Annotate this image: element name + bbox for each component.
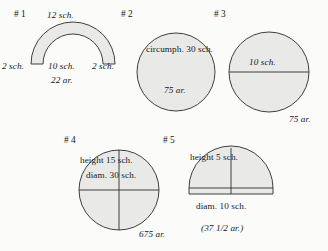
figure-1-center-label-text: 10 sch. [48, 61, 75, 71]
figure-2-number: # 2 [121, 10, 133, 19]
figure-1-left-label: 2 sch. [2, 62, 24, 71]
figure-1-area-label: 22 ar. [51, 76, 73, 85]
figure-4-diameter-label-text: diam. 30 sch. [86, 170, 136, 180]
figure-5-height-label-text: height 5 sch. [190, 152, 238, 162]
figure-3-circle-shape [228, 31, 310, 113]
figure-4-height-label: height 15 sch. [80, 156, 133, 165]
figure-3-diameter-label: 10 sch. [249, 58, 276, 67]
figure-3-number: # 3 [214, 10, 226, 19]
figure-1-top-label: 12 sch. [47, 11, 74, 20]
figure-4-number: # 4 [64, 136, 76, 145]
figure-5-diameter-label-text: diam. 10 sch. [196, 201, 246, 211]
figure-1-right-label: 2 sch. [92, 62, 114, 71]
diagram-sheet: # 1 12 sch. 2 sch. 10 sch. 2 sch. 22 ar.… [0, 0, 328, 251]
figure-5-height-label: height 5 sch. [190, 153, 238, 162]
figure-3-area-label: 75 ar. [289, 115, 311, 124]
figure-1-right-label-text: 2 sch. [92, 61, 114, 71]
figure-5-area-label: (37 1/2 ar.) [201, 224, 243, 233]
figure-4-diameter-label: diam. 30 sch. [86, 171, 136, 180]
figure-5-number: # 5 [163, 136, 175, 145]
figure-2-circumference-label: circumph. 30 sch. [146, 45, 213, 54]
figure-5-area-label-text: (37 1/2 ar.) [201, 223, 243, 233]
figure-1-arc-shape [25, 24, 121, 64]
figure-1-center-label: 10 sch. [48, 62, 75, 71]
figure-4-height-label-text: height 15 sch. [80, 155, 133, 165]
figure-4-area-label: 675 ar. [139, 230, 165, 239]
figure-1-number: # 1 [14, 10, 26, 19]
figure-5-diameter-label: diam. 10 sch. [196, 202, 246, 211]
figure-2-area-label: 75 ar. [164, 86, 186, 95]
figure-1-left-label-text: 2 sch. [2, 61, 24, 71]
